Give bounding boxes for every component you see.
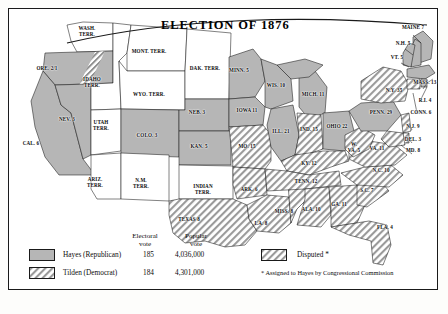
state-label-kan: KAN. 5 — [173, 144, 225, 150]
disputed-swatch — [261, 249, 287, 261]
legend-footnote: * Assigned to Hayes by Congressional Com… — [261, 269, 393, 276]
state-label-ga: GA. 11 — [313, 202, 365, 208]
state-label-texas: TEXAS 8 — [163, 217, 215, 223]
disputed-label: Disputed * — [297, 250, 329, 259]
map-title: ELECTION OF 1876 — [161, 18, 290, 33]
state-label-colo: COLO. 3 — [121, 133, 173, 139]
state-label-mass: MASS. 13 — [399, 80, 448, 86]
state-label-ohio: OHIO 22 — [311, 124, 363, 130]
tilden-swatch — [29, 267, 55, 279]
state-label-ky: KY. 12 — [283, 161, 335, 167]
state-label-wis: WIS. 10 — [250, 83, 302, 89]
state-minnesota — [229, 49, 265, 99]
election-map-page: ELECTION OF 1876 WASH. TERR.ORE. 2/1CAL.… — [0, 0, 448, 314]
state-label-wash-terr: WASH. TERR. — [61, 26, 113, 37]
state-label-cal: CAL. 6 — [5, 141, 57, 147]
state-label-r-i: R.I. 4 — [399, 98, 448, 104]
state-arkansas — [233, 167, 267, 199]
tilden-electoral: 184 — [143, 268, 154, 277]
state-label-n-j: N.J. 9 — [387, 124, 439, 130]
state-label-idaho-terr: IDAHO TERR. — [66, 77, 118, 88]
state-label-n-c: N.C. 10 — [355, 168, 407, 174]
state-label-ariz-terr: ARIZ. TERR. — [69, 177, 121, 188]
state-label-ala: ALA. 10 — [285, 207, 337, 213]
state-label-utah-terr: UTAH TERR. — [75, 120, 127, 131]
state-label-n-h: N.H. 5 — [377, 41, 429, 47]
state-utah-terr — [91, 109, 121, 155]
tilden-label: Tilden (Democrat) — [63, 268, 117, 277]
state-label-del: DEL. 3 — [387, 137, 439, 143]
map-frame: ELECTION OF 1876 WASH. TERR.ORE. 2/1CAL.… — [8, 8, 438, 290]
state-label-md: MD. 8 — [387, 148, 439, 154]
map-legend: Electoral vote Popular vote Hayes (Repub… — [9, 227, 439, 289]
state-label-n-m-terr: N.M. TERR. — [115, 178, 167, 189]
state-dakota-terr — [185, 29, 231, 99]
state-label-mich: MICH. 11 — [287, 92, 339, 98]
state-label-neb: NEB. 3 — [171, 110, 223, 116]
state-label-indian-terr: INDIAN TERR. — [177, 184, 229, 195]
state-label-vt: VT. 5 — [371, 55, 423, 61]
state-label-la: LA. 8 — [235, 221, 287, 227]
tilden-popular: 4,301,000 — [175, 268, 204, 277]
state-label-n-y: N.Y. 35 — [368, 88, 420, 94]
state-label-s-c: S.C. 7 — [341, 188, 393, 194]
state-label-tenn: TENN. 12 — [280, 179, 332, 185]
state-label-mo: MO. 15 — [221, 144, 273, 150]
legend-header-electoral: Electoral vote — [121, 233, 169, 249]
hayes-electoral: 185 — [143, 250, 154, 259]
state-label-iowa: IOWA 11 — [221, 108, 273, 114]
state-label-wyo-terr: WYO. TERR. — [123, 92, 175, 98]
legend-header-popular: Popular vote — [172, 233, 220, 249]
hayes-popular: 4,036,000 — [175, 250, 204, 259]
state-label-minn: MINN. 5 — [213, 68, 265, 74]
hayes-swatch — [29, 249, 55, 261]
state-label-ore: ORE. 2/1 — [21, 66, 73, 72]
state-label-ark: ARK. 6 — [223, 187, 275, 193]
hayes-label: Hayes (Republican) — [63, 250, 121, 259]
state-label-maine: MAINE 7 — [387, 25, 439, 31]
state-label-mont-terr: MONT. TERR. — [123, 49, 175, 55]
state-label-conn: CONN. 6 — [395, 110, 447, 116]
